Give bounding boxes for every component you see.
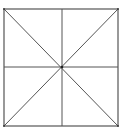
corner-bottom-left [3,125,5,127]
corner-top-left [3,8,5,10]
corner-top-right [117,8,119,10]
square-diagram [0,0,125,133]
center-point [61,66,64,69]
corner-bottom-right [117,125,119,127]
